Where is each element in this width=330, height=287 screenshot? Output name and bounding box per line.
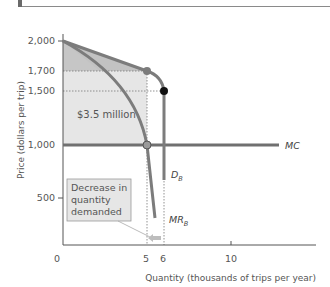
y-label-500: 500 <box>37 192 55 203</box>
chart: 2,000 1,700 1,500 1,000 500 0 5 6 10 Qua… <box>0 0 330 287</box>
y-label-1500: 1,500 <box>28 85 55 96</box>
callout-line-2: quantity <box>71 194 111 205</box>
competitive-point <box>160 87 168 95</box>
callout-line-3: demanded <box>71 206 122 217</box>
x-axis-title: Quantity (thousands of trips per year) <box>145 273 316 283</box>
demand-label: DB <box>171 169 183 183</box>
monopoly-point <box>143 67 151 75</box>
mr-label: MRB <box>169 214 189 228</box>
mr-mc-intersection-point <box>143 141 151 149</box>
mc-label: MC <box>285 140 300 151</box>
x-label-6: 6 <box>160 253 166 264</box>
shaded-area-value: $3.5 million <box>77 109 136 120</box>
y-label-2000: 2,000 <box>28 35 55 46</box>
x-label-5: 5 <box>143 253 149 264</box>
y-label-1000: 1,000 <box>28 139 55 150</box>
callout-line-1: Decrease in <box>71 182 127 193</box>
y-label-1700: 1,700 <box>28 65 55 76</box>
callout-pointer <box>118 221 150 237</box>
x-label-10: 10 <box>225 253 237 264</box>
y-axis-title: Price (dollars per trip) <box>16 81 26 179</box>
decrease-arrow-icon <box>148 234 161 242</box>
x-label-0: 0 <box>54 253 60 264</box>
